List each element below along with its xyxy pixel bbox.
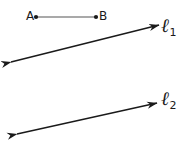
point-label-a: A — [26, 10, 34, 22]
geometry-figure: A B ℓ1 ℓ2 — [0, 0, 190, 155]
line-label-l2-glyph: ℓ — [161, 87, 169, 109]
line-label-l1: ℓ1 — [161, 16, 176, 38]
line-label-l1-subscript: 1 — [169, 26, 176, 39]
line-label-l1-glyph: ℓ — [161, 14, 169, 36]
point-a-dot — [34, 15, 38, 19]
line-label-l2: ℓ2 — [161, 89, 176, 111]
point-label-b: B — [99, 10, 107, 22]
line-label-l2-subscript: 2 — [169, 99, 176, 112]
line-l2-stroke — [17, 103, 157, 134]
point-b-dot — [94, 15, 98, 19]
line-l1-stroke — [11, 25, 159, 62]
